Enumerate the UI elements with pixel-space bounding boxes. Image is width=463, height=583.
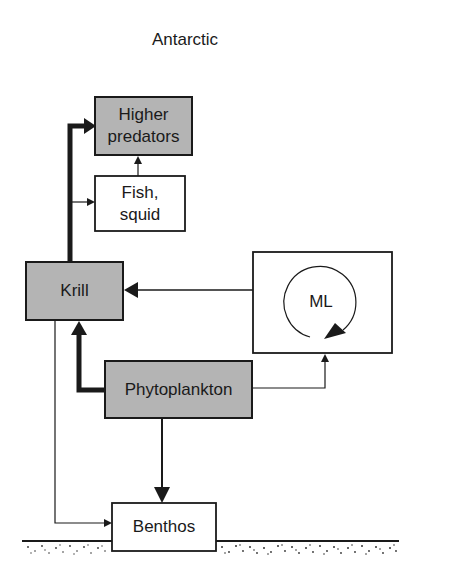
diagram-title: Antarctic: [115, 30, 255, 50]
edge-fish-squid-to-higher-predators: [134, 156, 142, 176]
label-higher-predators: Higher predators: [95, 97, 192, 155]
label-line: Fish,: [122, 182, 159, 204]
label-ml: ML: [291, 290, 351, 314]
label-krill: Krill: [26, 262, 123, 320]
edge-krill-to-higher-predators: [70, 118, 96, 262]
edge-phytoplankton-to-ml: [252, 354, 329, 388]
label-line: squid: [120, 204, 161, 226]
label-line: Higher: [118, 104, 168, 126]
edge-phytoplankton-to-krill: [71, 321, 105, 390]
edge-krill-to-fish-squid: [72, 198, 95, 206]
label-benthos: Benthos: [112, 503, 216, 551]
label-line: predators: [108, 126, 180, 148]
label-fish-squid: Fish, squid: [95, 176, 185, 231]
edge-krill-to-benthos: [55, 320, 112, 527]
edge-phytoplankton-to-benthos: [154, 418, 170, 503]
edge-ml-to-krill: [124, 282, 253, 298]
label-phytoplankton: Phytoplankton: [105, 361, 252, 418]
